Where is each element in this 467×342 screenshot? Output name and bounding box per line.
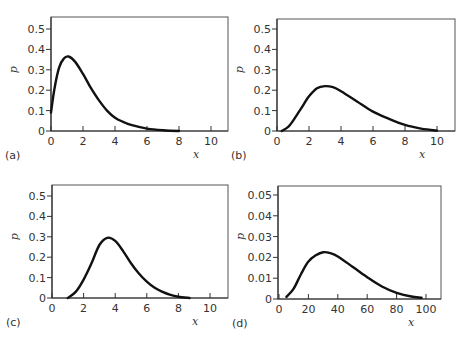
x-tick-label: 2 [80, 302, 87, 315]
y-tick-label: 0 [265, 293, 272, 306]
panel-label: (a) [5, 149, 20, 162]
x-tick-label: 8 [402, 135, 409, 148]
x-tick-label: 10 [430, 135, 444, 148]
y-tick-label: 0.2 [29, 251, 47, 264]
panel-b: 00.10.20.30.40.50246810px(b) [231, 19, 455, 162]
x-tick-label: 8 [176, 135, 183, 148]
panel-a: 00.10.20.30.40.50246810px(a) [5, 17, 228, 162]
figure-four-panel-distributions: 00.10.20.30.40.50246810px(a)00.10.20.30.… [0, 0, 467, 342]
x-tick-label: 6 [144, 135, 151, 148]
y-tick-label: 0.5 [28, 23, 46, 36]
x-tick-label: 0 [49, 302, 56, 315]
panel-d: 00.010.020.030.040.05020406080100px(d) [232, 186, 441, 330]
y-tick-label: 0.03 [248, 231, 273, 244]
y-axis-label: p [234, 233, 247, 240]
x-tick-label: 0 [274, 135, 281, 148]
x-tick-label: 2 [80, 135, 87, 148]
x-tick-label: 6 [370, 135, 377, 148]
y-tick-label: 0.1 [28, 105, 46, 118]
y-tick-label: 0.2 [254, 84, 272, 97]
y-tick-label: 0.1 [29, 272, 47, 285]
x-tick-label: 6 [143, 302, 150, 315]
x-axis-label: x [408, 316, 415, 329]
x-tick-label: 10 [204, 135, 218, 148]
y-tick-label: 0.1 [254, 105, 272, 118]
distribution-curve [68, 238, 190, 298]
y-tick-label: 0 [38, 125, 45, 138]
y-tick-label: 0 [39, 292, 46, 305]
x-axis-label: x [193, 148, 200, 161]
panel-c: 00.10.20.30.40.50246810px(c) [6, 185, 228, 329]
x-tick-label: 2 [306, 135, 313, 148]
plot-frame [51, 17, 228, 131]
x-tick-label: 40 [331, 303, 345, 316]
y-axis-label: p [233, 66, 246, 73]
y-tick-label: 0.3 [254, 64, 272, 77]
x-tick-label: 4 [112, 302, 119, 315]
distribution-curve [282, 86, 437, 131]
x-tick-label: 0 [48, 135, 55, 148]
y-tick-label: 0.04 [248, 210, 273, 223]
plot-frame [278, 186, 441, 299]
x-tick-label: 80 [390, 303, 404, 316]
distribution-curve [286, 252, 421, 298]
x-tick-label: 10 [203, 302, 217, 315]
x-tick-label: 4 [338, 135, 345, 148]
x-tick-label: 60 [360, 303, 374, 316]
panel-label: (c) [6, 316, 21, 329]
x-tick-label: 4 [112, 135, 119, 148]
x-tick-label: 8 [175, 302, 182, 315]
x-axis-label: x [419, 148, 426, 161]
panel-label: (b) [231, 149, 247, 162]
y-tick-label: 0.4 [28, 43, 46, 56]
panel-label: (d) [232, 317, 248, 330]
x-axis-label: x [192, 315, 199, 328]
plot-frame [277, 19, 455, 131]
x-tick-label: 100 [416, 303, 437, 316]
y-axis-label: p [7, 66, 20, 73]
y-tick-label: 0.01 [248, 272, 273, 285]
y-tick-label: 0.5 [29, 190, 47, 203]
y-tick-label: 0.3 [29, 231, 47, 244]
y-tick-label: 0.5 [254, 23, 272, 36]
y-tick-label: 0.3 [28, 64, 46, 77]
y-tick-label: 0.2 [28, 84, 46, 97]
y-tick-label: 0.4 [254, 43, 272, 56]
y-tick-label: 0.05 [248, 189, 273, 202]
y-tick-label: 0 [264, 125, 271, 138]
y-tick-label: 0.4 [29, 210, 47, 223]
plot-frame [52, 185, 228, 298]
distribution-curve [51, 56, 179, 131]
x-tick-label: 0 [276, 303, 283, 316]
y-tick-label: 0.02 [248, 251, 273, 264]
x-tick-label: 20 [301, 303, 315, 316]
y-axis-label: p [8, 233, 21, 240]
